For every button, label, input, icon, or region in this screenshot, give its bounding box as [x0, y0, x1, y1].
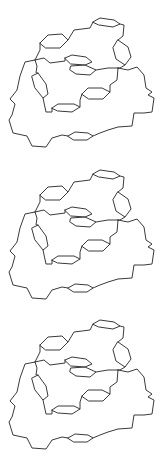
left-node-to-center: [35, 58, 65, 63]
top-right-ring: [93, 320, 120, 329]
right-outer-loop: [93, 369, 154, 438]
top-left-ring: [40, 336, 68, 350]
middle-ring: [82, 88, 110, 99]
left-node-to-top-left-ring: [35, 345, 40, 362]
center-to-right-node: [96, 220, 118, 222]
center-to-right-node: [96, 370, 118, 372]
left-node-to-center: [35, 360, 65, 365]
right-ring-to-right-node: [118, 217, 125, 220]
top-left-ring: [40, 34, 68, 48]
right-node-down: [110, 370, 118, 394]
bottom-ring: [68, 132, 93, 140]
right-vertical-ring: [113, 342, 131, 367]
top-link: [68, 174, 93, 192]
lower-ring: [52, 406, 80, 414]
right-ring-to-right-node: [118, 367, 125, 370]
middle-to-lower-ring: [80, 396, 82, 409]
top-link: [68, 22, 93, 40]
left-ring-to-lower: [43, 98, 52, 112]
middle-to-lower-ring: [80, 94, 82, 107]
structure-1: [9, 18, 154, 147]
bottom-ring: [68, 434, 93, 442]
bottom-ring: [68, 284, 93, 292]
left-vertical-ring: [32, 375, 48, 400]
lower-ring: [52, 256, 80, 264]
middle-ring: [82, 240, 110, 251]
left-vertical-ring: [32, 73, 48, 98]
center-upper-ring: [65, 55, 92, 65]
left-node-to-top-left-ring: [35, 195, 40, 212]
center-upper-ring: [65, 207, 92, 217]
center-lower-ring: [70, 367, 96, 377]
top-right-link: [118, 176, 124, 192]
left-node-to-left-ring: [35, 212, 38, 225]
middle-to-lower-ring: [80, 246, 82, 259]
left-node-to-left-ring: [35, 362, 38, 375]
center-lower-ring: [70, 217, 96, 227]
center-to-right-node: [96, 68, 118, 70]
left-node-to-top-left-ring: [35, 43, 40, 60]
structure-2: [9, 170, 154, 299]
center-upper-ring: [65, 357, 92, 367]
top-link: [68, 324, 93, 342]
right-outer-loop: [93, 67, 154, 136]
right-outer-loop: [93, 219, 154, 288]
right-node-down: [110, 68, 118, 92]
molecular-structures-svg: [0, 0, 166, 456]
left-ring-to-lower: [43, 250, 52, 264]
left-vertical-ring: [32, 225, 48, 250]
right-vertical-ring: [113, 40, 131, 65]
structure-3: [9, 320, 154, 449]
top-right-link: [118, 326, 124, 342]
right-vertical-ring: [113, 192, 131, 217]
top-right-ring: [93, 18, 120, 27]
top-right-link: [118, 24, 124, 40]
molecular-structure-figure: [0, 0, 166, 456]
middle-ring: [82, 390, 110, 401]
top-right-ring: [93, 170, 120, 179]
left-node-to-left-ring: [35, 60, 38, 73]
top-left-ring: [40, 186, 68, 200]
lower-ring: [52, 104, 80, 112]
left-node-to-center: [35, 210, 65, 215]
left-ring-to-lower: [43, 400, 52, 414]
center-lower-ring: [70, 65, 96, 75]
right-ring-to-right-node: [118, 65, 125, 68]
right-node-down: [110, 220, 118, 244]
